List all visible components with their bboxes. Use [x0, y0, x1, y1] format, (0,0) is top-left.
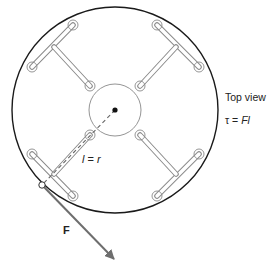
view-label: Top view	[225, 91, 266, 103]
pivot-dot	[112, 107, 117, 112]
radius-dashed-line	[42, 110, 115, 185]
torque-diagram: l = r F Top view τ = Fl	[0, 0, 277, 268]
fitting-bottom-right	[135, 130, 204, 201]
fitting-top-left	[27, 20, 95, 91]
force-label: F	[63, 224, 70, 236]
fitting-top-right	[135, 20, 204, 91]
force-arrow	[43, 186, 114, 259]
force-application-point	[39, 182, 45, 188]
torque-equation: τ = Fl	[225, 114, 251, 126]
radius-label: l = r	[82, 153, 102, 165]
